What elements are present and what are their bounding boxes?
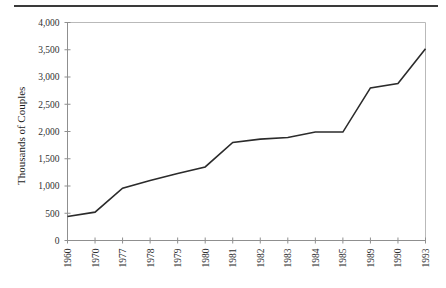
x-tick-label: 1980 — [201, 248, 211, 267]
y-tick-label: 500 — [45, 209, 60, 219]
x-tick-label: 1981 — [228, 248, 238, 267]
y-tick-label: 2,500 — [38, 100, 60, 110]
series-line-couples — [68, 49, 426, 217]
y-tick-label: 1,000 — [38, 181, 60, 191]
y-tick-label: 2,000 — [38, 127, 60, 137]
data-series-group — [68, 49, 426, 217]
x-tick-label: 1993 — [421, 248, 431, 267]
x-tick-label: 1982 — [256, 248, 266, 267]
line-chart-figure: 05001,0001,5002,0002,5003,0003,5004,000 … — [0, 0, 446, 288]
x-tick-label: 1990 — [393, 248, 403, 267]
y-tick-label: 0 — [55, 236, 60, 246]
y-tick-label: 1,500 — [38, 154, 60, 164]
x-tick-label: 1960 — [63, 248, 73, 267]
y-axis-title: Thousands of Couples — [15, 87, 27, 185]
chart-svg: 05001,0001,5002,0002,5003,0003,5004,000 … — [0, 0, 446, 288]
y-tick-label: 3,000 — [38, 72, 60, 82]
x-tick-label: 1978 — [146, 248, 156, 267]
y-axis-tick-labels: 05001,0001,5002,0002,5003,0003,5004,000 — [38, 18, 60, 246]
x-tick-label: 1989 — [366, 248, 376, 267]
y-tick-label: 4,000 — [38, 18, 60, 28]
plot-axes — [68, 23, 426, 241]
screenshot-root: 05001,0001,5002,0002,5003,0003,5004,000 … — [0, 0, 446, 288]
plot-frame-path — [68, 23, 426, 241]
plot-frame — [68, 23, 426, 241]
x-axis-tick-labels: 1960197019771978197919801981198219831984… — [63, 248, 431, 267]
x-tick-label: 1977 — [118, 248, 128, 267]
y-tick-label: 3,500 — [38, 45, 60, 55]
y-axis-title-group: Thousands of Couples — [15, 87, 27, 185]
x-tick-label: 1984 — [311, 248, 321, 267]
x-tick-label: 1983 — [283, 248, 293, 267]
x-tick-label: 1979 — [173, 248, 183, 267]
x-tick-label: 1985 — [338, 248, 348, 267]
x-tick-label: 1970 — [91, 248, 101, 267]
